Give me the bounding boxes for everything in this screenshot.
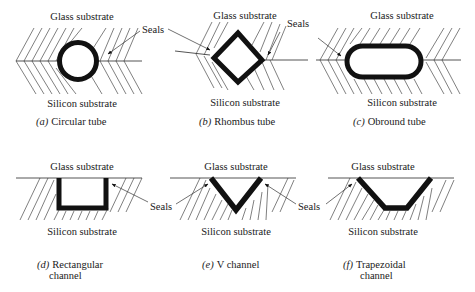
glass-substrate-label: Glass substrate [370, 10, 434, 21]
caption-b: (b)Rhombus tube [199, 116, 276, 128]
seals-arrow-right [268, 32, 280, 55]
silicon-substrate-label: Silicon substrate [47, 226, 117, 237]
seals-arrow-left [176, 184, 208, 204]
caption-f-line2: channel [360, 270, 393, 281]
silicon-substrate-label: Silicon substrate [367, 97, 437, 108]
panel-b-rhombus-tube: Glass substrate Seals Silicon substrate … [168, 10, 309, 128]
panel-a-circular-tube: Glass substrate Seals Silicon substrate … [16, 11, 164, 128]
trapezoidal-channel-seal [358, 178, 431, 208]
silicon-hatching [20, 178, 142, 220]
seals-arrow [318, 38, 341, 56]
seals-callout-label-de: Seals [150, 201, 172, 212]
rectangular-channel-seal [59, 178, 106, 208]
caption-d-line2: channel [49, 270, 82, 281]
glass-substrate-label: Glass substrate [50, 161, 114, 172]
caption-a: (a)Circular tube [36, 116, 107, 128]
panel-d-rectangular-channel: Glass substrate Silicon substrate (d)Rec… [16, 161, 148, 281]
silicon-hatching [180, 178, 294, 220]
panel-f-trapezoidal-channel: Glass substrate Silicon substrate (f)Tra… [326, 161, 454, 281]
glass-substrate-label: Glass substrate [213, 10, 277, 21]
obround-channel-seal [347, 46, 421, 77]
seals-callout-label: Seals [142, 24, 164, 35]
caption-c: (c)Obround tube [353, 116, 426, 128]
glass-substrate-label: Glass substrate [351, 161, 415, 172]
seals-arrow-right [265, 184, 296, 204]
panel-c-obround-tube: Glass substrate Silicon substrate (c)Obr… [316, 10, 461, 128]
silicon-substrate-label: Silicon substrate [47, 98, 117, 109]
v-channel-seal [211, 178, 261, 210]
glass-substrate-label: Glass substrate [204, 161, 268, 172]
silicon-substrate-label: Silicon substrate [348, 226, 418, 237]
circular-channel-seal [60, 43, 97, 80]
seals-callout-label: Seals [287, 18, 309, 29]
silicon-substrate-label: Silicon substrate [201, 226, 271, 237]
microchannel-cross-sections-figure: Glass substrate Seals Silicon substrate … [0, 0, 475, 292]
silicon-substrate-label: Silicon substrate [210, 97, 280, 108]
rhombus-channel-seal [214, 33, 262, 82]
caption-e: (e)V channel [202, 259, 259, 271]
glass-substrate-label: Glass substrate [50, 11, 114, 22]
seals-callout-label-ef: Seals [298, 201, 320, 212]
panel-e-v-channel: Glass substrate Silicon substrate (e)V c… [170, 161, 296, 271]
silicon-hatching [330, 178, 454, 220]
seals-arrow-left [168, 29, 210, 50]
seals-arrow [108, 31, 140, 54]
